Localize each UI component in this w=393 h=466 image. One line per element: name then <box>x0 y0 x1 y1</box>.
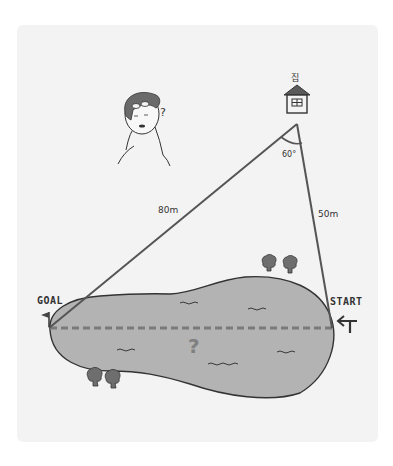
unknown-distance-mark: ? <box>188 334 200 358</box>
goal-flag-icon <box>41 312 49 327</box>
distance-start-label: 50m <box>318 209 338 219</box>
diagram-canvas <box>0 0 393 466</box>
start-arrow-sign-icon <box>338 316 357 333</box>
tree-icon <box>262 255 297 274</box>
goal-label: GOAL <box>37 295 63 306</box>
person-question-mark: ? <box>160 106 166 119</box>
house-label: 집 <box>291 71 299 84</box>
person-icon <box>118 92 170 166</box>
house-icon <box>284 85 310 113</box>
start-label: START <box>330 296 363 307</box>
angle-label: 60° <box>282 150 296 159</box>
distance-goal-label: 80m <box>158 205 178 215</box>
